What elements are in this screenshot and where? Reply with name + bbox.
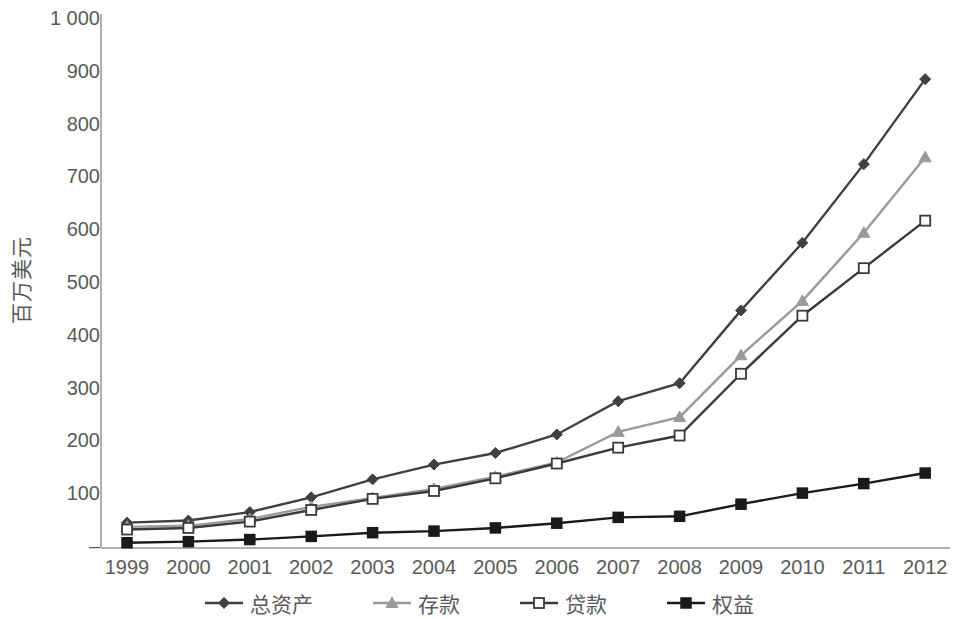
legend-item-4[interactable]: 权益: [665, 588, 754, 618]
legend-marker-square-open-icon: [518, 594, 560, 612]
legend-item-1[interactable]: 总资产: [203, 588, 313, 618]
series-2-markers: [121, 151, 931, 531]
legend-label: 权益: [712, 588, 754, 618]
series-4-markers: [122, 468, 930, 548]
plot-area: [0, 0, 957, 619]
chart-legend: 总资产存款贷款权益: [0, 588, 957, 618]
legend-item-2[interactable]: 存款: [371, 588, 460, 618]
legend-item-3[interactable]: 贷款: [518, 588, 607, 618]
series-lines: [0, 0, 957, 619]
legend-label: 总资产: [250, 588, 313, 618]
series-4: [127, 473, 925, 543]
series-1-markers: [122, 74, 931, 529]
axis-lines: [101, 14, 950, 548]
legend-label: 贷款: [565, 588, 607, 618]
legend-marker-triangle-icon: [371, 594, 413, 612]
legend-marker-diamond-icon: [203, 594, 245, 612]
legend-label: 存款: [418, 588, 460, 618]
legend-marker-square-filled-icon: [665, 594, 707, 612]
series-3-markers: [122, 216, 930, 535]
series-3: [127, 221, 925, 530]
line-chart: 百万美元 1 000900800700600500400300200100– 1…: [0, 0, 957, 619]
